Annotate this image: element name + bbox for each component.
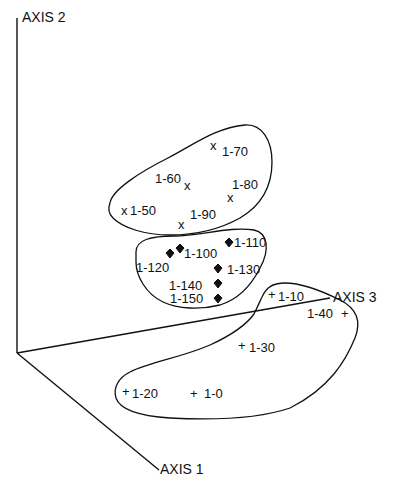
x-marker-icon: x (121, 203, 128, 218)
point-label: 1-70 (222, 144, 248, 159)
point-label: 1-130 (227, 262, 260, 277)
group-plus-points: + 1-10 1-40 + + 1-30 + 1-20 + 1-0 (122, 287, 349, 401)
point-label: 1-10 (278, 289, 304, 304)
point-label: 1-60 (155, 171, 181, 186)
point-label: 1-30 (249, 340, 275, 355)
x-marker-icon: x (184, 178, 191, 193)
point-label: 1-0 (204, 386, 223, 401)
point-label: 1-40 (307, 306, 333, 321)
svg-text:x: x (227, 190, 234, 205)
diamond-marker-icon (166, 249, 174, 258)
plus-marker-icon: + (122, 384, 130, 399)
point-label: 1-90 (190, 207, 216, 222)
svg-text:x: x (184, 178, 191, 193)
diamond-marker-icon (214, 279, 222, 288)
point-label: 1-80 (232, 177, 258, 192)
x-marker-icon: x (227, 190, 234, 205)
svg-text:x: x (178, 217, 185, 232)
axis-1-line (17, 353, 159, 470)
plus-marker-icon: + (238, 338, 246, 353)
diamond-marker-icon (176, 244, 184, 253)
axis-2-label: AXIS 2 (22, 9, 66, 25)
ordination-plot: AXIS 2 AXIS 3 AXIS 1 x 1-50 1-60 x x 1-7… (0, 0, 395, 488)
plus-marker-icon: + (190, 386, 198, 401)
point-label: 1-150 (170, 291, 203, 306)
group-x-points: x 1-50 1-60 x x 1-70 1-80 x 1-90 x (121, 138, 258, 232)
point-label: 1-120 (136, 260, 169, 275)
plus-marker-icon: + (341, 306, 349, 321)
svg-text:x: x (210, 138, 217, 153)
svg-text:x: x (121, 203, 128, 218)
point-label: 1-100 (184, 246, 217, 261)
x-marker-icon: x (178, 217, 185, 232)
axis-3-label: AXIS 3 (333, 289, 377, 305)
x-marker-icon: x (210, 138, 217, 153)
point-label: 1-50 (130, 203, 156, 218)
axis-1-label: AXIS 1 (160, 461, 204, 477)
group-diamond-points: 1-100 1-110 1-120 1-130 1-140 1-150 (136, 235, 266, 306)
point-label: 1-20 (132, 386, 158, 401)
diamond-marker-icon (214, 294, 222, 303)
point-label: 1-110 (234, 235, 266, 250)
diamond-marker-icon (214, 264, 222, 273)
plus-marker-icon: + (268, 287, 276, 302)
diamond-marker-icon (225, 238, 233, 247)
